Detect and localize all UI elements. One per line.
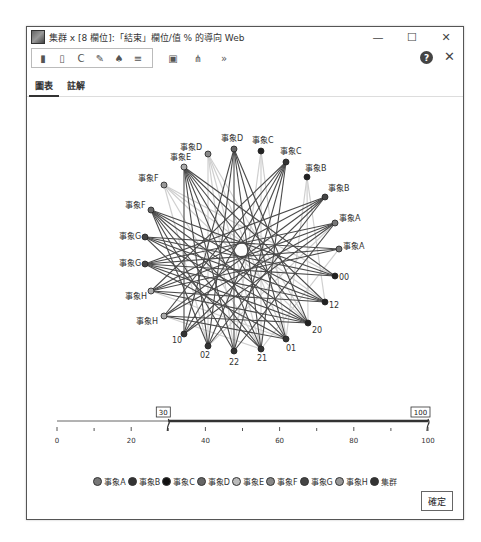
legend-item: 事象C [162,476,195,487]
app-icon [31,30,45,44]
legend-swatch-icon [370,477,379,486]
legend: 事象A事象B事象C事象D事象E事象F事象G事象H集群 [27,476,463,487]
export-icon[interactable]: ▣ [164,49,182,67]
maximize-button[interactable]: ☐ [395,27,429,47]
graph-node-label: 事象G [119,231,141,241]
tab-annotations[interactable]: 註解 [59,75,91,96]
graph-node-label: 10 [172,336,182,345]
graph-node-label: 21 [257,354,267,363]
graph-node[interactable] [332,220,338,226]
legend-label: 事象A [104,476,125,487]
graph-node[interactable] [142,261,148,267]
toolbar: ▮ ▯ C ✎ ♠ ≡ ▣ ⋔ » ? ✕ [27,47,463,69]
graph-node-label: 12 [329,301,339,310]
legend-swatch-icon [162,477,171,486]
graph-node-label: 事象B [305,163,327,173]
slider-low-handle-value: 30 [159,409,168,417]
graph-node[interactable] [305,320,311,326]
graph-node-label: 事象F [138,173,159,183]
slider-tick-label: 60 [275,437,284,445]
legend-item: 事象A [93,476,125,487]
graph-node[interactable] [161,313,167,319]
slider-high-handle-value: 100 [414,409,427,417]
legend-label: 事象F [277,476,298,487]
slider-tick-label: 20 [127,437,136,445]
legend-label: 事象G [311,476,333,487]
graph-node-label: 事象H [136,316,158,326]
graph-node[interactable] [181,164,187,170]
tab-bar: 圖表 註解 [27,75,463,97]
slider-tick-label: 40 [201,437,210,445]
graph-node[interactable] [336,246,342,252]
legend-swatch-icon [300,477,309,486]
graph-node[interactable] [258,346,264,352]
legend-item: 集群 [370,476,397,487]
undo-icon[interactable]: C [73,50,89,66]
brush-icon[interactable]: ✎ [92,50,108,66]
graph-node-label: 事象C [252,135,274,145]
graph-node[interactable] [283,159,289,165]
threshold-slider[interactable]: 02040608010030100 [27,397,465,457]
graph-node[interactable] [205,151,211,157]
graph-node-label: 事象D [221,133,243,143]
legend-label: 事象C [173,476,195,487]
legend-swatch-icon [93,477,102,486]
graph-node[interactable] [332,273,338,279]
clipboard-icon[interactable]: ▮ [35,50,51,66]
legend-swatch-icon [232,477,241,486]
close-window-button[interactable]: ✕ [429,27,463,47]
graph-node[interactable] [322,299,328,305]
menu-icon[interactable]: ≡ [130,50,146,66]
graph-node-label: 22 [229,358,239,367]
tool-group: ▮ ▯ C ✎ ♠ ≡ [31,48,153,68]
graph-node[interactable] [205,343,211,349]
graph-node[interactable] [231,146,237,152]
legend-item: 事象D [197,476,230,487]
graph-node[interactable] [322,194,328,200]
graph-node[interactable] [161,182,167,188]
graph-edge [184,167,234,351]
graph-node[interactable] [283,336,289,342]
legend-label: 事象H [346,476,368,487]
graph-node-label: 00 [339,273,349,282]
graph-node-label: 事象H [125,291,147,301]
help-icon[interactable]: ? [420,51,433,64]
graph-node-label: 事象A [339,213,361,223]
layout-icon[interactable]: ⋔ [189,49,207,67]
legend-swatch-icon [128,477,137,486]
slider-tick-label: 80 [349,437,358,445]
legend-swatch-icon [197,477,206,486]
ok-button[interactable]: 確定 [421,491,453,511]
graph-node-label: 01 [286,344,296,353]
close-icon[interactable]: ✕ [444,49,455,64]
legend-swatch-icon [266,477,275,486]
legend-item: 事象E [232,476,264,487]
legend-item: 事象B [128,476,161,487]
graph-node-label: 事象G [119,258,141,268]
legend-item: 事象F [266,476,298,487]
tab-chart[interactable]: 圖表 [27,75,59,96]
graph-node-label: 20 [312,326,322,335]
graph-node[interactable] [148,207,154,213]
dialog-window: 集群 x [8 欄位]:「結束」欄位/值 % 的導向 Web — ☐ ✕ ▮ ▯… [26,26,464,520]
graph-node-label: 事象A [343,241,365,251]
copy-icon[interactable]: ▯ [54,50,70,66]
legend-swatch-icon [335,477,344,486]
slider-tick-label: 100 [421,437,434,445]
graph-node[interactable] [231,348,237,354]
slider-tick-label: 0 [55,437,59,445]
legend-label: 事象D [208,476,230,487]
graph-node-label: 事象B [328,183,350,193]
graph-node[interactable] [142,234,148,240]
more-icon[interactable]: » [215,49,233,67]
minimize-button[interactable]: — [361,27,395,47]
graph-node[interactable] [148,288,154,294]
paint-icon[interactable]: ♠ [111,50,127,66]
window-title: 集群 x [8 欄位]:「結束」欄位/值 % 的導向 Web [49,31,244,44]
graph-node[interactable] [304,174,310,180]
legend-label: 事象E [243,476,264,487]
graph-node-label: 事象F [125,200,146,210]
title-bar[interactable]: 集群 x [8 欄位]:「結束」欄位/值 % 的導向 Web — ☐ ✕ [27,27,463,47]
graph-node[interactable] [258,148,264,154]
legend-label: 事象B [139,476,161,487]
